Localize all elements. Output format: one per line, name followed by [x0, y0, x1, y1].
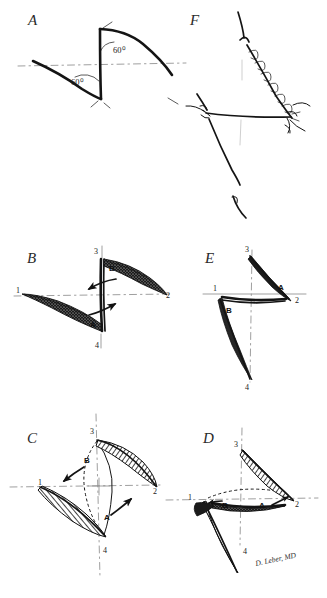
panel-c-arrow-b	[64, 467, 84, 481]
zplasty-figure: A 60⁰ 60⁰ F	[0, 0, 327, 598]
panel-d-dashed-path	[208, 489, 282, 498]
panel-f-right-skin-1	[293, 103, 310, 106]
panel-c: C 3 1 2 4 B A	[10, 414, 160, 578]
panel-b-common-limb-shadow	[104, 259, 105, 331]
panel-b-flap-label-a: A	[90, 320, 96, 329]
panel-e-flap-lower-edge	[220, 299, 250, 379]
panel-a-limb-lower	[33, 61, 101, 99]
panel-a-tick-top	[103, 22, 112, 28]
panel-e: E 3 1 2 4 A B	[203, 245, 306, 392]
panel-d-flap-lower-edge	[204, 502, 237, 572]
panel-f-lower-tail	[233, 196, 246, 218]
panel-c-flap-upper	[96, 440, 157, 487]
panel-e-vertex-2: 2	[295, 296, 299, 305]
panel-c-vertex-3: 3	[90, 427, 94, 436]
panel-e-flap-upper-edge	[250, 256, 289, 299]
panel-c-flap-label-a: A	[104, 513, 110, 522]
panel-e-vertex-3: 3	[245, 245, 249, 254]
panel-a-angle-upper: 60⁰	[113, 45, 126, 55]
panel-f-left-skin-1	[186, 106, 205, 112]
panel-a-angle-lower: 60⁰	[71, 77, 84, 87]
panel-b-vertex-3: 3	[94, 247, 98, 256]
panel-f-right-tick-2	[291, 118, 299, 121]
panel-b-vertex-4: 4	[95, 341, 99, 350]
panel-e-letter: E	[204, 250, 214, 266]
panel-e-common-limb	[222, 297, 286, 300]
panel-c-vertex-2: 2	[153, 487, 157, 496]
panel-e-flap-label-b: B	[226, 306, 232, 315]
panel-c-axis-v	[96, 414, 100, 578]
panel-b-letter: B	[27, 250, 36, 266]
panel-c-arrow-a	[111, 499, 131, 515]
panel-c-vertex-4: 4	[103, 546, 107, 555]
panel-a-tick-stray	[168, 98, 178, 104]
panel-a-tick-bottom2	[104, 103, 110, 108]
panel-e-vertex-1: 1	[213, 284, 217, 293]
panel-d-vertex-2: 2	[295, 500, 299, 509]
panel-c-flap-lower	[38, 486, 106, 537]
panel-d-flap-label-a: A	[259, 501, 265, 510]
panel-f-arrow-upper	[240, 37, 249, 42]
panel-f-lower-limb	[209, 119, 240, 185]
panel-c-vertex-1: 1	[38, 478, 42, 487]
panel-f-right-skin-2	[290, 120, 305, 131]
panel-e-flap-label-a: A	[278, 283, 284, 292]
panel-d-letter: D	[202, 430, 214, 446]
panel-a-tick-bottom	[91, 101, 98, 107]
panel-f-left-skin-2	[201, 115, 209, 118]
panel-b-common-limb	[101, 259, 102, 331]
panel-c-letter: C	[27, 430, 38, 446]
panel-d-axis-v	[240, 428, 242, 545]
artist-signature: D. Leber, MD	[254, 550, 298, 568]
panel-a-limb-upper	[100, 29, 172, 75]
panel-d-vertex-1: 1	[188, 493, 192, 502]
panel-e-vertex-4: 4	[245, 383, 249, 392]
panel-d-vertex-4: 4	[243, 547, 247, 556]
panel-e-axis-v	[250, 250, 252, 382]
panel-b-flap-label-b: B	[109, 264, 115, 273]
panel-f-letter: F	[189, 12, 200, 28]
panel-d-vertex-3: 3	[234, 440, 238, 449]
panel-d: D 3 1 2 4 B A D. Leber, MD	[166, 428, 318, 573]
panel-a-arc-upper	[100, 42, 114, 52]
panel-f-ref-lower	[240, 120, 241, 145]
panel-b: B 1 2 3 4 B A	[14, 246, 172, 350]
panel-b-vertex-1: 1	[16, 286, 20, 295]
panel-b-vertex-2: 2	[166, 291, 170, 300]
panel-a-letter: A	[27, 12, 38, 28]
panel-f-right-arrow-tail	[287, 118, 290, 133]
panel-a-common-limb	[100, 29, 101, 99]
panel-a: A 60⁰ 60⁰	[18, 12, 186, 108]
panel-f: F	[186, 12, 310, 218]
panel-d-vertex1-wedge	[194, 502, 214, 516]
panel-d-flap-upper-edge	[242, 450, 293, 500]
panel-c-axis-h	[10, 485, 160, 487]
panel-c-flap-label-b: B	[84, 456, 90, 465]
panel-f-scar-upper-tail	[238, 12, 244, 38]
panel-d-flap-label-b: B	[222, 501, 228, 510]
panel-d-arrow-a	[272, 497, 288, 505]
panel-b-arrow-b	[89, 279, 116, 289]
panel-f-transverse-limb	[206, 113, 291, 117]
panel-f-suture-loops	[249, 50, 292, 113]
